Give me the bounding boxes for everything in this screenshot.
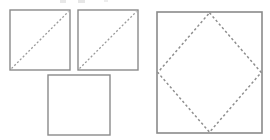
geometry-figure-canvas (0, 0, 270, 140)
shape-square-bottom-middle (48, 75, 110, 135)
geometry-figure-svg (0, 0, 270, 140)
square-large-right-outline (157, 12, 262, 133)
shape-square-large-right (157, 12, 262, 133)
crop-artifact-group (60, 0, 108, 3)
shape-square-top-left (10, 10, 70, 70)
crop-artifact-3 (104, 0, 108, 2)
crop-artifact-1 (60, 0, 66, 3)
square-bottom-middle-outline (48, 75, 110, 135)
crop-artifact-2 (78, 0, 85, 3)
shape-square-top-right (78, 10, 138, 70)
